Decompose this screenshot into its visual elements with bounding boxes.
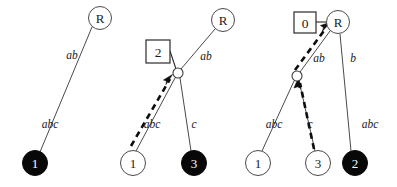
edge-label-abc-left: abc <box>266 118 283 130</box>
edge-label-c: c <box>191 118 196 130</box>
edge-label-ab: ab <box>313 52 325 64</box>
box-label-p2: 2 <box>155 45 162 60</box>
edge-p3-1-to-j <box>262 81 294 151</box>
connector-p2-box-to-junction <box>170 51 176 69</box>
node-label-p3-1: 1 <box>255 156 262 171</box>
panel-3: ab b abc c abc 0 R 1 3 2 <box>246 11 379 176</box>
node-label-p3-2: 2 <box>352 156 359 171</box>
graph-diagram: ab abc R 1 ab abc c 2 R 1 <box>0 0 397 187</box>
node-label-p2-R: R <box>219 13 228 28</box>
junction-p3[interactable] <box>292 71 302 81</box>
edge-p2-j-to-R <box>181 29 215 69</box>
node-label-p1-1: 1 <box>32 156 39 171</box>
edge-p2-3-to-j <box>180 78 191 151</box>
dashed-path-p2 <box>131 79 170 146</box>
node-label-p2-1: 1 <box>130 156 137 171</box>
edge-label-abc: abc <box>42 118 59 130</box>
edge-p2-1-to-j <box>136 78 175 151</box>
edge-label-ab: ab <box>200 50 212 62</box>
panel-1: ab abc R 1 <box>23 7 112 176</box>
junction-p2[interactable] <box>173 68 183 78</box>
edge-label-abc: abc <box>144 118 161 130</box>
edge-label-b: b <box>350 52 356 64</box>
node-label-p2-3: 3 <box>191 156 198 171</box>
panel-2: ab abc c 2 R 1 3 <box>121 9 235 176</box>
edge-label-abc-right: abc <box>362 118 379 130</box>
arrowhead-p2 <box>164 75 173 85</box>
edge-label-ab: ab <box>66 49 78 61</box>
node-label-p1-R: R <box>96 11 105 26</box>
edge-p1-1-to-R <box>40 27 92 152</box>
node-label-p3-R: R <box>334 15 343 30</box>
node-label-p3-3: 3 <box>315 156 322 171</box>
box-label-p3: 0 <box>302 16 309 31</box>
figure-canvas: ab abc R 1 ab abc c 2 R 1 <box>0 0 397 187</box>
edge-label-c: c <box>307 118 312 130</box>
